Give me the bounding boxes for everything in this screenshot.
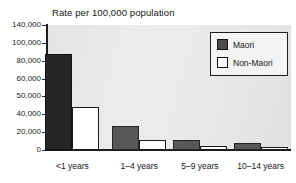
bar-non-maori [261,147,288,150]
y-axis-tick-label: 40,000 [17,109,41,118]
legend-label: Non-Maori [233,58,273,68]
x-axis-category-label: 10–14 years [231,161,291,171]
legend-label: Maori [233,40,254,50]
legend-swatch-icon [217,57,228,68]
x-axis-category-label: 1–4 years [109,161,169,171]
y-axis-tick-label: 50,000 [17,91,41,100]
y-axis-tick-label: 60,000 [17,74,41,83]
y-axis-tick-label: 80,000 [17,56,41,65]
legend-swatch-icon [217,39,228,50]
bar-maori [112,126,139,150]
bar-non-maori [200,146,227,150]
x-axis-category-label: 5–9 years [170,161,230,171]
bar-maori [173,140,200,150]
bar-chart: Rate per 100,000 population 140,000100,0… [0,0,296,183]
bar-non-maori [139,140,166,150]
bar-group [45,25,99,150]
legend-item-non-maori: Non-Maori [217,57,273,68]
legend: Maori Non-Maori [210,32,288,76]
legend-item-maori: Maori [217,39,254,50]
y-axis-tick-label: 100,000 [12,38,41,47]
y-axis-tick-label: 140,000 [12,20,41,29]
y-axis-labels: 140,000100,00080,00060,00050,00040,00020… [0,0,41,183]
bar-maori [45,54,72,150]
bar-maori [234,143,261,150]
y-axis-tick-label: 20,000 [17,127,41,136]
bar-group [112,25,166,150]
y-axis-tick-label: 0 [37,145,41,154]
chart-title: Rate per 100,000 population [52,7,175,18]
bar-non-maori [72,107,99,150]
x-axis-category-label: <1 years [42,161,102,171]
